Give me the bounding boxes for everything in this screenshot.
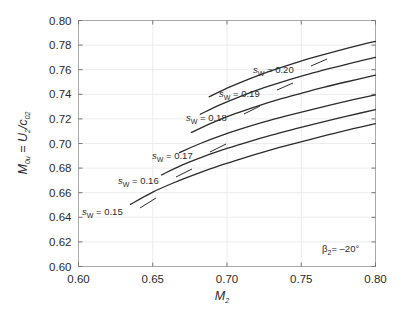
beta-value: = –20° (331, 243, 359, 254)
x-tick-label: 0.75 (290, 273, 312, 285)
x-axis-title-sub: 2 (224, 297, 229, 304)
y-tick-label: 0.78 (49, 39, 71, 51)
y-tick-label: 0.62 (49, 236, 71, 248)
curve-label-value: = 0.19 (230, 88, 259, 99)
y-tick-label: 0.64 (49, 211, 72, 223)
curve-label-value: = 0.15 (93, 206, 122, 217)
curve-label-value: = 0.18 (197, 112, 226, 123)
y-tick-label: 0.76 (49, 64, 71, 76)
chart-figure: 0.600.650.700.750.80 0.600.620.640.660.6… (0, 0, 414, 319)
x-tick-label: 0.70 (216, 273, 238, 285)
y-tick-label: 0.80 (49, 15, 71, 27)
y-axis-title-m: M (16, 163, 30, 174)
curve-label-value: = 0.20 (264, 64, 293, 75)
y-axis-title-c-sub: 02 (24, 111, 31, 119)
y-axis-title-eq: = (16, 142, 30, 156)
chart-svg: 0.600.650.700.750.80 0.600.620.640.660.6… (0, 0, 414, 319)
x-tick-label: 0.65 (142, 273, 164, 285)
x-tick-label: 0.60 (67, 273, 89, 285)
y-tick-label: 0.72 (49, 113, 71, 125)
y-tick-label: 0.68 (49, 162, 71, 174)
y-tick-label: 0.66 (49, 187, 71, 199)
y-axis-title-m-sub: 0u (24, 156, 31, 164)
y-axis-title: M0u = U2/c02 (16, 111, 31, 174)
y-tick-label: 0.74 (49, 88, 72, 100)
y-tick-label: 0.60 (49, 261, 71, 273)
y-tick-label: 0.70 (49, 138, 71, 150)
curve-label-value: = 0.16 (129, 175, 158, 186)
x-axis-title-main: M (215, 289, 226, 303)
svg-text:M0u = U2/c02: M0u = U2/c02 (16, 111, 31, 174)
curve-label-value: = 0.17 (163, 150, 192, 161)
x-tick-label: 0.80 (364, 273, 386, 285)
